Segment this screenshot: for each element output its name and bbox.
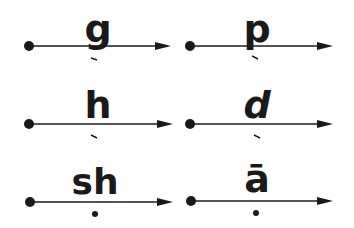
letter-card-h: h xyxy=(0,76,177,152)
letter-card-g: g xyxy=(0,0,177,76)
letter-label: g xyxy=(78,10,118,48)
start-stroke-icon xyxy=(254,135,260,138)
letter-card-p: p xyxy=(177,0,354,76)
letter-card-d: d xyxy=(177,76,354,152)
start-dot-icon xyxy=(92,211,98,217)
start-stroke-icon xyxy=(252,56,258,59)
letter-label: d xyxy=(237,86,277,124)
letter-label: ā xyxy=(237,160,277,198)
start-stroke-icon xyxy=(91,135,97,138)
letter-label: p xyxy=(237,10,277,48)
letter-card-sh: sh xyxy=(0,152,177,228)
letter-card-a-macron: ā xyxy=(177,152,354,228)
start-stroke-icon xyxy=(91,58,97,60)
letter-label: h xyxy=(78,86,118,124)
start-dot-icon xyxy=(253,210,259,216)
letter-label: sh xyxy=(64,164,126,200)
